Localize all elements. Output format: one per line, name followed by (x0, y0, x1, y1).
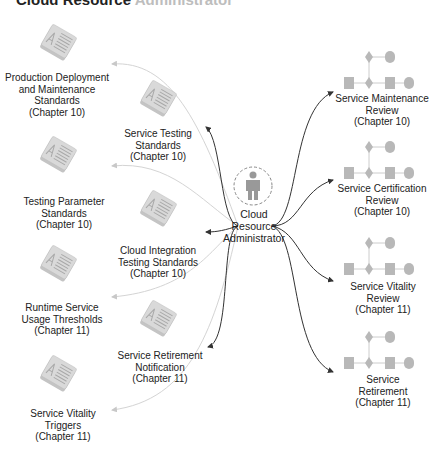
workflow-icon[interactable] (342, 228, 422, 288)
document-stack-icon[interactable] (136, 298, 180, 340)
arrow-to-maintenance-review (272, 92, 333, 226)
arrow-to-service-retirement (272, 226, 333, 372)
doc-label-vitality-triggers: Service Vitality Triggers (Chapter 11) (30, 408, 95, 443)
person-icon[interactable] (233, 166, 273, 206)
process-label-vitality-review: Service Vitality Review (Chapter 11) (350, 281, 415, 316)
document-stack-icon[interactable] (36, 353, 80, 395)
process-label-maintenance-review: Service Maintenance Review (Chapter 10) (335, 93, 428, 128)
process-label-service-retirement: Service Retirement (Chapter 11) (355, 374, 410, 409)
doc-label-retirement-notification: Service Retirement Notification (Chapter… (117, 350, 202, 385)
process-label-certification-review: Service Certification Review (Chapter 10… (338, 183, 427, 218)
document-stack-icon[interactable] (36, 22, 80, 64)
doc-label-runtime-usage: Runtime Service Usage Thresholds (Chapte… (22, 302, 103, 337)
workflow-icon[interactable] (342, 322, 422, 382)
document-stack-icon[interactable] (136, 188, 180, 230)
center-label: Cloud Resource Administrator (223, 208, 285, 244)
doc-label-testing-parameter: Testing Parameter Standards (Chapter 10) (23, 196, 104, 231)
doc-label-service-testing: Service Testing Standards (Chapter 10) (124, 128, 192, 163)
document-stack-icon[interactable] (36, 243, 80, 285)
doc-label-cloud-integration: Cloud Integration Testing Standards (Cha… (118, 245, 198, 280)
doc-label-production-deployment: Production Deployment and Maintenance St… (5, 72, 109, 118)
document-stack-icon[interactable] (136, 78, 180, 120)
document-stack-icon[interactable] (36, 134, 80, 176)
